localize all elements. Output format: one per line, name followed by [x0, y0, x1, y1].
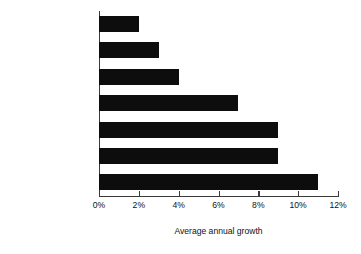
x-axis-title: Average annual growth	[99, 226, 338, 236]
bar	[99, 122, 278, 138]
x-tick-label: 8%	[238, 200, 278, 210]
bar	[99, 69, 179, 85]
x-tick-mark	[298, 191, 299, 197]
x-tick-mark	[338, 191, 339, 197]
x-tick-mark	[219, 191, 220, 197]
bar	[99, 174, 318, 190]
x-tick-label: 10%	[278, 200, 318, 210]
x-tick-label: 4%	[159, 200, 199, 210]
x-tick-label: 12%	[318, 200, 358, 210]
bar	[99, 148, 278, 164]
bar-chart: W. EuropeJapanNorth AmericaSouth America…	[0, 0, 361, 254]
bar	[99, 95, 238, 111]
x-tick-mark	[139, 191, 140, 197]
x-tick-label: 2%	[119, 200, 159, 210]
x-tick-label: 0%	[79, 200, 119, 210]
x-tick-mark	[99, 191, 100, 197]
plot-area: W. EuropeJapanNorth AmericaSouth America…	[0, 0, 361, 254]
bar	[99, 42, 159, 58]
bar	[99, 16, 139, 32]
x-tick-label: 6%	[199, 200, 239, 210]
x-tick-mark	[258, 191, 259, 197]
x-tick-mark	[179, 191, 180, 197]
